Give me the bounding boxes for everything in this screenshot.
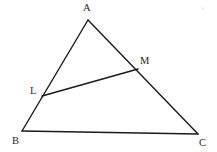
- triangle-side-bc: [22, 131, 198, 134]
- triangle-side-ab: [22, 20, 88, 131]
- point-label-l: L: [30, 85, 37, 96]
- point-label-m: M: [140, 55, 150, 66]
- triangle-diagram-canvas: [0, 0, 217, 152]
- vertex-label-b: B: [12, 135, 19, 146]
- vertex-label-c: C: [199, 137, 206, 148]
- vertex-label-a: A: [83, 2, 91, 13]
- geometry-figure: A B C L M: [0, 0, 217, 152]
- triangle-side-ac: [88, 20, 198, 134]
- scan-artifact-speck: [201, 7, 204, 10]
